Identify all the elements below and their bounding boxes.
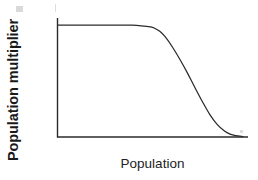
- scan-artifact: [16, 6, 23, 12]
- population-multiplier-curve: [58, 25, 243, 136]
- chart-plot-area: [0, 0, 258, 180]
- figure-container: Population multiplier Population: [0, 0, 258, 180]
- x-axis-label: Population: [57, 156, 248, 171]
- y-axis-label: Population multiplier: [0, 0, 26, 180]
- scan-artifact: [240, 130, 243, 133]
- scan-artifact: [55, 4, 56, 12]
